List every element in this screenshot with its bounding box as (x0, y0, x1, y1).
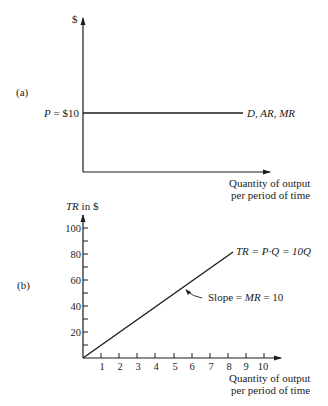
y-tick-labels-b: 20 40 60 80 100 (65, 223, 81, 338)
price-label-value: = $10 (51, 107, 80, 119)
demand-curve-label: D, AR, MR (246, 107, 295, 119)
slope-annotation: Slope = MR = 10 (208, 291, 284, 303)
y-axis-label-tr-italic: TR (66, 200, 79, 212)
slope-annotation-arrow (186, 290, 202, 298)
total-revenue-line (83, 252, 233, 358)
x-ticks-b (101, 353, 264, 358)
x-axis-label-b-line1: Quantity of output (229, 372, 310, 384)
tr-curve-label: TR = P·Q = 10Q (236, 245, 311, 257)
x-axis-label-a-line2: per period of time (231, 189, 310, 201)
y-tick-100: 100 (65, 223, 81, 234)
slope-value: = 10 (261, 291, 284, 303)
x-tick-10: 10 (258, 361, 269, 372)
x-tick-2: 2 (117, 361, 122, 372)
y-axis-label-dollar: $ (72, 13, 78, 25)
y-ticks-b (83, 228, 88, 345)
x-tick-3: 3 (135, 361, 140, 372)
x-tick-8: 8 (226, 361, 231, 372)
y-tick-40: 40 (71, 301, 82, 312)
y-axis-label-tr-rest: in $ (79, 200, 99, 212)
x-tick-labels-b: 1 2 3 4 5 6 7 8 9 10 (99, 361, 268, 372)
x-tick-7: 7 (208, 361, 213, 372)
y-tick-60: 60 (71, 275, 82, 286)
price-label: P = $10 (43, 107, 79, 119)
panel-a: $ (a) P = $10 D, AR, MR Quantity of outp… (16, 13, 310, 201)
x-axis-label-a-line1: Quantity of output (229, 177, 310, 189)
y-tick-20: 20 (71, 327, 82, 338)
slope-mr: MR (244, 291, 261, 303)
x-tick-9: 9 (243, 361, 248, 372)
slope-text: Slope = (208, 291, 245, 303)
x-tick-1: 1 (99, 361, 104, 372)
panel-label-b: (b) (17, 279, 30, 292)
figure: $ (a) P = $10 D, AR, MR Quantity of outp… (0, 0, 328, 406)
panel-b: TR in $ (b) 20 40 60 80 100 (17, 200, 311, 396)
y-axis-label-tr: TR in $ (66, 200, 99, 212)
panel-label-a: (a) (16, 86, 29, 99)
y-tick-80: 80 (71, 249, 82, 260)
x-tick-6: 6 (189, 361, 194, 372)
x-tick-4: 4 (153, 361, 159, 372)
x-axis-label-b-line2: per period of time (231, 384, 310, 396)
x-tick-5: 5 (172, 361, 177, 372)
